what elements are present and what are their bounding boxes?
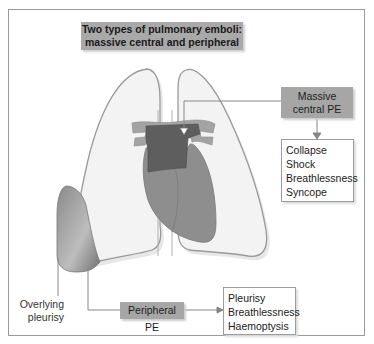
central-pe-effects-list: Collapse Shock Breathlessness Syncope bbox=[281, 139, 354, 202]
central-label-line-1: Massive bbox=[281, 90, 353, 103]
diagram-title: Two types of pulmonary emboli: massive c… bbox=[81, 22, 243, 50]
title-line-2: massive central and peripheral bbox=[81, 36, 243, 49]
peripheral-pe-effects-list: Pleurisy Breathlessness Haemoptysis bbox=[223, 287, 296, 335]
list-item: Breathlessness bbox=[286, 171, 349, 185]
list-item: Haemoptysis bbox=[228, 319, 291, 333]
list-item: Breathlessness bbox=[228, 305, 291, 319]
central-label-line-2: central PE bbox=[281, 103, 353, 116]
list-item: Pleurisy bbox=[228, 291, 291, 305]
list-item: Shock bbox=[286, 157, 349, 171]
pleurisy-label-line-2: pleurisy bbox=[16, 311, 64, 324]
title-line-1: Two types of pulmonary emboli: bbox=[81, 23, 243, 36]
pleurisy-label-line-1: Overlying bbox=[16, 298, 64, 311]
list-item: Syncope bbox=[286, 185, 349, 199]
list-item: Collapse bbox=[286, 143, 349, 157]
overlying-pleurisy-label: Overlying pleurisy bbox=[16, 298, 64, 324]
massive-central-pe-label: Massive central PE bbox=[281, 87, 353, 118]
peripheral-pe-label: Peripheral PE bbox=[120, 302, 184, 319]
